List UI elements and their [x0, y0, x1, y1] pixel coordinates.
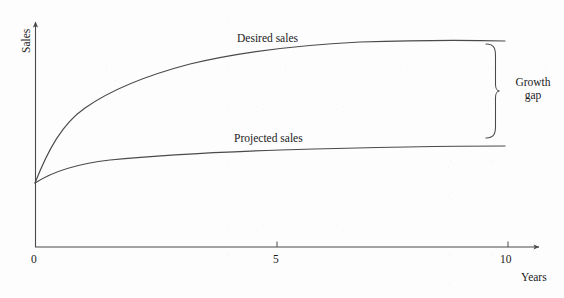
x-axis-label: Years	[521, 271, 547, 284]
growth-gap-brace	[486, 44, 500, 138]
x-tick-label-10: 10	[500, 253, 512, 266]
desired-sales-curve	[35, 40, 505, 183]
growth-gap-annotation: Growth gap	[511, 76, 555, 102]
projected-sales-curve	[35, 146, 505, 183]
growth-gap-line-2: gap	[511, 89, 555, 102]
y-axis-label: Sales	[20, 29, 33, 53]
x-tick-label-5: 5	[273, 253, 279, 266]
growth-gap-line-1: Growth	[511, 76, 555, 89]
series-label-desired-sales: Desired sales	[237, 32, 298, 45]
series-label-projected-sales: Projected sales	[234, 132, 303, 145]
x-tick-label-0: 0	[31, 253, 37, 266]
chart-figure: Sales Years 0 5 10 Desired sales Project…	[0, 0, 564, 298]
